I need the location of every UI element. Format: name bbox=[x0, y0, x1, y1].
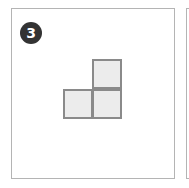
figure-panel-next-partial bbox=[186, 8, 189, 179]
square-cell-bottom-left bbox=[63, 89, 93, 119]
square-cell-bottom-right bbox=[92, 89, 122, 119]
figure-number-badge: 3 bbox=[20, 22, 42, 44]
square-cell-top-right bbox=[92, 59, 122, 89]
